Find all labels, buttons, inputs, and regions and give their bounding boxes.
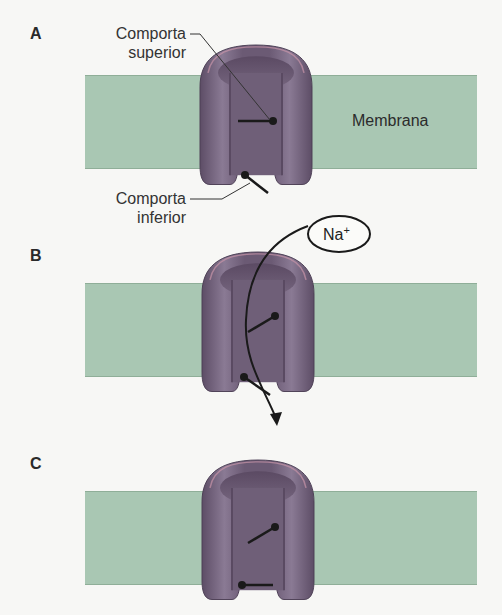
diagram-overlay (0, 0, 502, 615)
ion-symbol: Na (323, 226, 343, 243)
sodium-ion-label: Na+ (323, 224, 350, 244)
ion-charge: + (343, 224, 349, 236)
arrowhead-icon (270, 412, 282, 426)
sodium-channel-a (200, 45, 312, 185)
sodium-channel-c (202, 460, 314, 600)
sodium-channel-b (202, 252, 314, 392)
lower-gate-leader (222, 183, 250, 199)
